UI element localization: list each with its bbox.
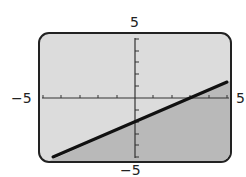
y-min-label: −5 (120, 163, 141, 177)
y-max-label: 5 (130, 15, 139, 29)
calculator-screen-graph (0, 0, 246, 177)
x-min-label: −5 (11, 91, 32, 105)
x-max-label: 5 (236, 91, 245, 105)
